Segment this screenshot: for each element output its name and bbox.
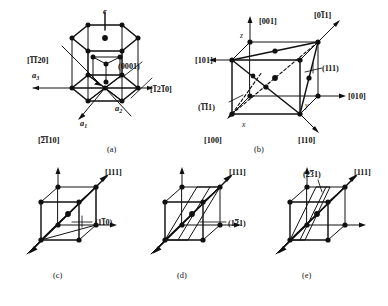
panel-a-label-2110: [2110]	[38, 136, 60, 145]
panel-e-axis-right	[345, 223, 366, 228]
panel-a-caption: (a)	[107, 145, 117, 154]
panel-c-axis-up	[56, 167, 61, 187]
panel-a-label-1120: [1120]	[27, 56, 49, 65]
panel-b-label-100: [100]	[204, 136, 222, 145]
panel-d-label-111: [111]	[229, 168, 246, 177]
panel-e-axis-down-left	[276, 240, 290, 254]
panel-a-label-0001: (0001)	[118, 62, 140, 71]
panel-a-label-1210: [1210]	[150, 85, 172, 94]
panel-d: [111] (121) (d)	[151, 167, 246, 280]
panel-b-label-101: [101]	[195, 56, 213, 65]
panel-b-label-plane-111-left: (111)	[198, 103, 215, 112]
panel-e-caption: (e)	[302, 271, 312, 280]
panel-b-label-011: [011]	[314, 11, 332, 20]
panel-e-plane-leader	[318, 180, 322, 192]
panel-d-dir-111-arrow	[152, 174, 233, 254]
panel-b-plane-111-leader	[305, 63, 322, 73]
panel-b-caption: (b)	[254, 145, 264, 154]
panel-a-label-a1: a1	[80, 119, 87, 129]
panel-b-label-001: [001]	[259, 17, 277, 26]
panel-d-axis-up	[180, 167, 185, 187]
panel-b: [001] [011] [101] z x y (111) (111) [010…	[195, 11, 366, 154]
panel-a: [1120] a3 c (0001) [1210] a2 a1 [2110] (…	[27, 7, 172, 154]
panel-e-label-plane: (231)	[303, 170, 321, 179]
panel-b-label-110: [110]	[298, 136, 316, 145]
panel-c: [111] (110) (c)	[27, 167, 122, 280]
panel-b-label-plane-111-right: (111)	[322, 64, 339, 73]
panel-d-caption: (d)	[177, 271, 187, 280]
panel-c-label-111: [111]	[105, 168, 122, 177]
panel-b-axis-x	[227, 96, 250, 119]
panel-b-label-010: [010]	[348, 92, 366, 101]
panel-b-label-axis-y: y	[304, 101, 309, 110]
panel-d-axis-down-left	[151, 240, 165, 254]
panel-a-a1-axis-arrow	[78, 88, 105, 120]
panel-c-caption: (c)	[53, 271, 63, 280]
panel-a-a3-axis-arrow	[33, 86, 72, 91]
panel-b-dir-110-arrow	[300, 114, 319, 133]
panel-d-label-plane: (121)	[228, 219, 246, 228]
panel-b-axis-z	[248, 16, 253, 42]
panel-c-label-plane: (110)	[95, 218, 113, 227]
panel-e-label-111: [111]	[354, 168, 371, 177]
panel-a-label-a3: a3	[32, 71, 39, 81]
panel-b-label-axis-z: z	[239, 31, 243, 40]
crystallography-figure: [1120] a3 c (0001) [1210] a2 a1 [2110] (…	[0, 0, 388, 306]
panel-b-label-axis-x: x	[241, 120, 246, 129]
panel-a-label-c-axis: c	[103, 7, 107, 16]
panel-b-axis-y	[318, 94, 346, 99]
panel-e: [111] (231) (e)	[276, 167, 371, 280]
panel-c-axis-down-left	[27, 240, 41, 254]
panel-b-dir-011-arrow	[318, 20, 340, 42]
